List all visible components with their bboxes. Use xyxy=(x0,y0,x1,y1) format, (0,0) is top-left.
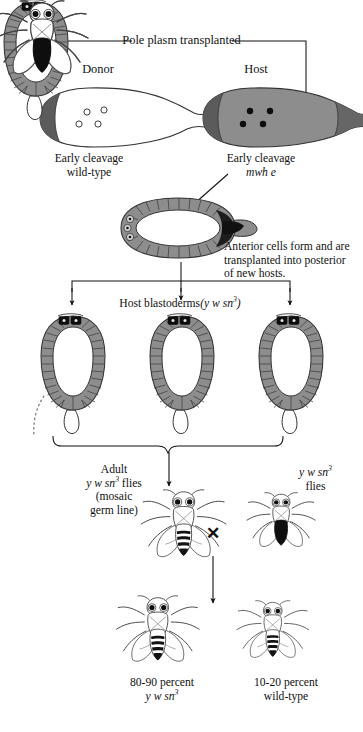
donor-label: Donor xyxy=(50,62,146,77)
dotted-guide-curve xyxy=(34,396,44,436)
adult-line-4: germ line) xyxy=(58,504,170,518)
host-blastoderm-3 xyxy=(259,314,323,434)
host-embryo xyxy=(201,86,363,150)
blastoderms-genotype: y w sn xyxy=(204,297,233,310)
donor-caption: Early cleavage wild-type xyxy=(24,152,154,179)
adult-line-2: y w sn3 flies xyxy=(58,477,170,491)
adult-line-1: Adult xyxy=(58,463,170,477)
fly-offspring-left xyxy=(116,596,199,661)
donor-caption-line2: wild-type xyxy=(24,166,154,180)
host-blastoderm-1 xyxy=(41,314,105,434)
offspring-right-line2: wild-type xyxy=(224,690,348,704)
pole-plasm-label: Pole plasm transplanted xyxy=(0,33,363,48)
partner-genotype: y w sn xyxy=(299,466,328,479)
cross-symbol: ✕ xyxy=(196,524,230,544)
paren-close: ) xyxy=(237,297,241,310)
note-line-2: transplanted into posterior xyxy=(224,254,363,268)
offspring-right-line1: 10-20 percent xyxy=(224,676,348,690)
adult-flies-word: flies xyxy=(119,477,142,490)
blastoderms-text: Host blastoderms xyxy=(119,297,200,310)
offspring-left-genotype: y w sn3 xyxy=(100,690,224,704)
donor-embryo xyxy=(38,86,225,150)
anterior-cells-note: Anterior cells form and are transplanted… xyxy=(224,240,363,281)
host-caption-line1: Early cleavage xyxy=(196,152,326,166)
partner-genotype-sup: 3 xyxy=(328,464,332,473)
fly-parent-ywsn3 xyxy=(247,493,315,547)
note-line-3: of new hosts. xyxy=(224,267,363,281)
adult-mosaic-label: Adult y w sn3 flies (mosaic germ line) xyxy=(58,463,170,518)
offspring-left-line1: 80-90 percent xyxy=(100,676,224,690)
partner-line-1: y w sn3 xyxy=(268,466,363,480)
offspring-right-caption: 10-20 percent wild-type xyxy=(224,676,348,703)
adult-genotype: y w sn xyxy=(86,477,115,490)
host-blastoderm-2 xyxy=(150,314,214,434)
offspring-left-genotype-sup: 3 xyxy=(175,688,179,697)
partner-line-2: flies xyxy=(268,480,363,494)
offspring-left-genotype-text: y w sn xyxy=(146,690,175,703)
blastoderm-brace xyxy=(53,436,283,453)
diagram-vectors xyxy=(0,0,363,732)
host-caption: Early cleavage mwh e xyxy=(196,152,326,179)
donor-caption-line1: Early cleavage xyxy=(24,152,154,166)
offspring-left-caption: 80-90 percent y w sn3 xyxy=(100,676,224,703)
host-label: Host xyxy=(208,62,304,77)
note-line-1: Anterior cells form and are xyxy=(224,240,363,254)
fly-offspring-right xyxy=(237,601,309,658)
adult-line-3: (mosaic xyxy=(58,490,170,504)
host-blastoderms-label: Host blastoderms(y w sn3) xyxy=(60,297,300,311)
figure-canvas: Pole plasm transplanted Donor Host Early… xyxy=(0,0,363,732)
host-caption-genotype: mwh e xyxy=(196,166,326,180)
partner-fly-label: y w sn3 flies xyxy=(268,466,363,493)
